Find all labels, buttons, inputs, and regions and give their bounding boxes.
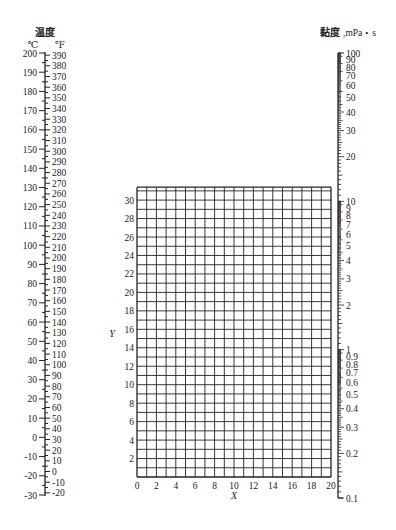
viscosity-scale: 1009080706050403020109876543210.90.80.70…: [338, 49, 361, 504]
celsius-tick-label: 110: [23, 221, 37, 231]
fahrenheit-tick-label: 240: [52, 211, 67, 221]
fahrenheit-tick-label: 330: [52, 115, 67, 125]
celsius-tick-label: -10: [24, 452, 37, 462]
viscosity-tick-label: 6: [346, 230, 351, 240]
viscosity-tick-label: 0.7: [346, 368, 358, 378]
fahrenheit-tick-label: 100: [52, 360, 67, 370]
celsius-tick-label: 10: [28, 414, 38, 424]
fahrenheit-tick-label: 300: [52, 147, 67, 157]
viscosity-tick-label: 4: [346, 256, 351, 266]
celsius-tick-label: 190: [23, 68, 38, 78]
fahrenheit-tick-label: 40: [52, 424, 62, 434]
x-tick-label: 18: [307, 481, 317, 491]
fahrenheit-tick-label: 320: [52, 125, 67, 135]
x-axis-label: X: [230, 490, 238, 501]
viscosity-unit: ,mPa・s: [343, 28, 376, 38]
celsius-tick-label: 40: [28, 356, 38, 366]
viscosity-tick-label: 0.3: [346, 423, 358, 433]
x-tick-label: 6: [193, 481, 198, 491]
celsius-tick-label: 150: [23, 145, 38, 155]
fahrenheit-tick-label: 180: [52, 275, 67, 285]
y-tick-label: 26: [125, 233, 135, 243]
y-tick-label: 10: [125, 380, 135, 390]
celsius-tick-label: 120: [23, 202, 38, 212]
fahrenheit-tick-label: 20: [52, 446, 62, 456]
y-tick-label: 12: [125, 362, 135, 372]
viscosity-tick-label: 7: [346, 220, 351, 230]
fahrenheit-tick-label: 150: [52, 307, 67, 317]
viscosity-tick-label: 30: [346, 126, 356, 136]
viscosity-tick-label: 0.1: [346, 494, 358, 504]
viscosity-tick-label: 50: [346, 93, 356, 103]
viscosity-tick-label: 0.5: [346, 390, 358, 400]
celsius-tick-label: -20: [24, 471, 37, 481]
y-tick-label: 14: [125, 343, 135, 353]
fahrenheit-tick-label: 290: [52, 157, 67, 167]
celsius-tick-label: 80: [28, 279, 38, 289]
viscosity-title: 黏度: [320, 26, 341, 38]
celsius-tick-label: 60: [28, 318, 38, 328]
y-tick-label: 22: [125, 269, 135, 279]
fahrenheit-tick-label: 190: [52, 264, 67, 274]
x-tick-label: 4: [173, 481, 178, 491]
x-tick-label: 0: [135, 481, 140, 491]
viscosity-tick-label: 60: [346, 81, 356, 91]
fahrenheit-tick-label: 390: [52, 51, 67, 61]
fahrenheit-tick-label: 90: [52, 371, 62, 381]
y-tick-label: 2: [129, 454, 134, 464]
fahrenheit-tick-label: 50: [52, 414, 62, 424]
viscosity-nomogram: 温度 ℃ ℉ 200190180170160150140130120110100…: [0, 0, 396, 530]
fahrenheit-tick-label: 200: [52, 253, 67, 263]
fahrenheit-tick-label: 220: [52, 232, 67, 242]
y-tick-label: 4: [129, 436, 134, 446]
fahrenheit-tick-label: 0: [52, 467, 57, 477]
y-axis-label: Y: [109, 328, 116, 339]
fahrenheit-tick-label: 160: [52, 296, 67, 306]
celsius-tick-label: 0: [32, 433, 37, 443]
fahrenheit-tick-label: 10: [52, 456, 62, 466]
fahrenheit-tick-label: -20: [52, 488, 65, 498]
viscosity-tick-label: 0.4: [346, 404, 358, 414]
viscosity-tick-label: 20: [346, 152, 356, 162]
fahrenheit-tick-label: 210: [52, 243, 67, 253]
celsius-tick-label: 50: [28, 337, 38, 347]
temperature-title: 温度: [35, 26, 56, 38]
y-tick-label: 6: [129, 417, 134, 427]
y-tick-label: 16: [125, 325, 135, 335]
y-tick-label: 28: [125, 214, 135, 224]
celsius-tick-label: 30: [28, 375, 38, 385]
celsius-tick-label: 160: [23, 125, 38, 135]
fahrenheit-tick-label: 60: [52, 403, 62, 413]
fahrenheit-tick-label: -10: [52, 478, 65, 488]
celsius-tick-label: 20: [28, 394, 38, 404]
fahrenheit-tick-label: 280: [52, 168, 67, 178]
fahrenheit-tick-label: 360: [52, 83, 67, 93]
viscosity-tick-label: 5: [346, 241, 351, 251]
fahrenheit-unit: ℉: [55, 40, 65, 50]
fahrenheit-tick-label: 170: [52, 286, 67, 296]
celsius-tick-label: 200: [23, 49, 38, 59]
viscosity-tick-label: 2: [346, 301, 351, 311]
fahrenheit-tick-label: 340: [52, 104, 67, 114]
y-tick-label: 20: [125, 288, 135, 298]
celsius-tick-label: 130: [23, 183, 38, 193]
fahrenheit-tick-label: 260: [52, 189, 67, 199]
xy-coordinate-grid: 0246810121416182024681012141618202224262…: [125, 187, 337, 491]
celsius-tick-label: 180: [23, 87, 38, 97]
viscosity-tick-label: 0.2: [346, 449, 358, 459]
viscosity-tick-label: 70: [346, 71, 356, 81]
fahrenheit-tick-label: 270: [52, 179, 67, 189]
fahrenheit-tick-label: 380: [52, 61, 67, 71]
celsius-tick-label: 140: [23, 164, 38, 174]
fahrenheit-tick-label: 30: [52, 435, 62, 445]
celsius-tick-label: 170: [23, 106, 38, 116]
fahrenheit-tick-label: 70: [52, 392, 62, 402]
x-tick-label: 8: [212, 481, 217, 491]
fahrenheit-tick-label: 80: [52, 382, 62, 392]
y-tick-label: 30: [125, 196, 135, 206]
fahrenheit-tick-label: 250: [52, 200, 67, 210]
fahrenheit-tick-label: 130: [52, 328, 67, 338]
celsius-tick-label: 100: [23, 241, 38, 251]
viscosity-tick-label: 3: [346, 274, 351, 284]
x-tick-label: 12: [249, 481, 259, 491]
